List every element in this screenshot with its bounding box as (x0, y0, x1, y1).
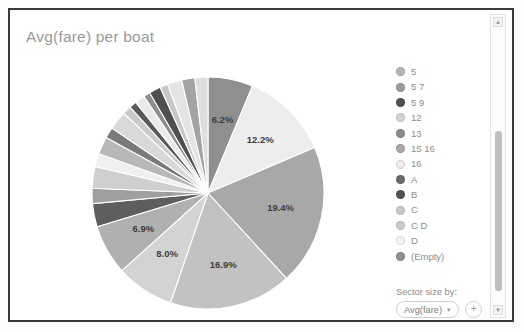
legend-swatch-icon (396, 175, 405, 184)
pie-slice-label: 16.9% (210, 259, 237, 270)
pie-slice-label: 8.0% (156, 248, 178, 259)
screen: Avg(fare) per boat 6.2%12.2%19.4%16.9%8.… (0, 0, 524, 332)
legend-item[interactable]: 16 (396, 156, 486, 171)
pie-slice-label: 6.9% (133, 223, 155, 234)
legend-swatch-icon (396, 113, 405, 122)
legend-swatch-icon (396, 221, 405, 230)
legend-item[interactable]: 5 9 (396, 95, 486, 110)
legend-swatch-icon (396, 67, 405, 76)
legend-swatch-icon (396, 236, 405, 245)
legend-item-label: C (411, 205, 418, 215)
sector-size-caption: Sector size by: (396, 287, 492, 297)
sector-size-dropdown[interactable]: Avg(fare) ▾ (396, 301, 459, 318)
legend-swatch-icon (396, 206, 405, 215)
scroll-down-arrow-icon[interactable]: ▼ (493, 305, 503, 315)
legend-item[interactable]: 15 16 (396, 141, 486, 156)
legend-swatch-icon (396, 144, 405, 153)
legend-swatch-icon (396, 190, 405, 199)
pie-chart-svg[interactable]: 6.2%12.2%19.4%16.9%8.0%6.9% (82, 70, 334, 316)
legend-item[interactable]: 5 7 (396, 79, 486, 94)
legend-item-label: 5 9 (411, 98, 424, 108)
legend-item-label: B (411, 190, 417, 200)
legend-item-label: 12 (411, 113, 422, 123)
legend-swatch-icon (396, 129, 405, 138)
legend-item[interactable]: 13 (396, 126, 486, 141)
pie-slice-label: 19.4% (267, 202, 294, 213)
pie-slice-label: 12.2% (247, 134, 274, 145)
legend: 55 75 9121315 1616ABCC DD(Empty) (396, 64, 486, 264)
legend-swatch-icon (396, 252, 405, 261)
scrollbar-thumb[interactable] (495, 131, 502, 291)
legend-item-label: 5 (411, 67, 416, 77)
vertical-scrollbar[interactable]: ▲ ▼ (490, 14, 506, 318)
legend-item[interactable]: 5 (396, 64, 486, 79)
chart-card: Avg(fare) per boat 6.2%12.2%19.4%16.9%8.… (8, 8, 514, 322)
legend-swatch-icon (396, 160, 405, 169)
legend-item[interactable]: A (396, 172, 486, 187)
legend-swatch-icon (396, 83, 405, 92)
sector-size-row: Avg(fare) ▾ + (396, 301, 492, 318)
legend-item[interactable]: B (396, 187, 486, 202)
legend-item-label: D (411, 236, 418, 246)
legend-item-label: 16 (411, 159, 422, 169)
legend-item-label: C D (411, 221, 427, 231)
page-title: Avg(fare) per boat (26, 28, 154, 46)
pie-slice-label: 6.2% (212, 114, 234, 125)
legend-item-label: 13 (411, 129, 422, 139)
legend-item[interactable]: C (396, 203, 486, 218)
legend-item[interactable]: 12 (396, 110, 486, 125)
legend-item[interactable]: C D (396, 218, 486, 233)
legend-item-label: (Empty) (411, 252, 444, 262)
legend-swatch-icon (396, 98, 405, 107)
sector-size-value: Avg(fare) (404, 305, 442, 315)
legend-item-label: A (411, 175, 417, 185)
legend-item[interactable]: (Empty) (396, 249, 486, 264)
legend-item[interactable]: D (396, 233, 486, 248)
pie-chart[interactable]: 6.2%12.2%19.4%16.9%8.0%6.9% (82, 70, 334, 310)
chevron-down-icon: ▾ (447, 306, 451, 313)
legend-item-label: 15 16 (411, 144, 435, 154)
legend-item-label: 5 7 (411, 82, 424, 92)
add-field-button[interactable]: + (465, 301, 482, 318)
sector-size-control: Sector size by: Avg(fare) ▾ + (396, 287, 492, 318)
scroll-up-arrow-icon[interactable]: ▲ (493, 17, 503, 27)
